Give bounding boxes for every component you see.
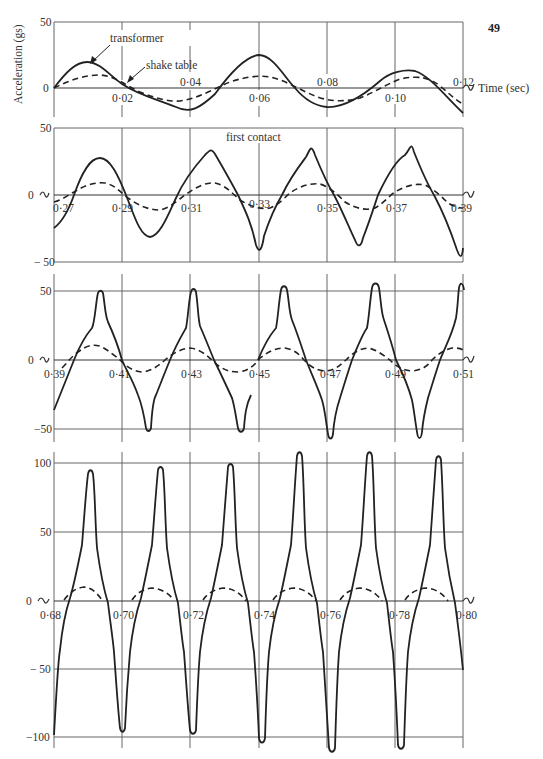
p4-ytick-neg50: − 50 [30,663,51,675]
p2-ytick-50: 50 [40,122,52,134]
transformer-label: transformer [110,32,164,44]
panel-1: 50 0 0·02 0·04 0·06 0·08 0·10 0·12 Time … [40,16,529,117]
p1-ytick-0: 0 [43,82,49,94]
x-axis-label: Time (sec) [478,81,529,95]
y-axis-label: Acceleration (gs) [12,24,25,104]
p4-ytick-0: 0 [26,595,32,607]
p1-xtick: 0·04 [180,76,201,88]
p4-xtick: 0·68 [40,609,61,621]
p2-xtick: 0·31 [181,202,202,214]
p4-xtick: 0·72 [183,609,204,621]
p4-ytick-neg100: −100 [26,731,50,743]
p4-xtick: 0·70 [113,609,134,621]
first-contact-label: first contact [226,131,281,143]
panel-2: 50 0 − 50 0·27 0·29 0·31 0·33 0·35 0·37 … [28,122,474,268]
p3-ytick-50: 50 [40,285,52,297]
p4-xtick: 0·76 [320,609,341,621]
p3-xtick: 0·45 [249,368,270,380]
shake-table-label: shake table [146,59,197,71]
p4-xtick: 0·78 [389,609,410,621]
p3-ytick-0: 0 [28,354,34,366]
p3-xtick: 0·39 [44,368,65,380]
p3-xtick: 0·43 [181,368,202,380]
p1-xtick: 0·06 [249,92,270,104]
p1-xtick: 0·08 [317,76,338,88]
p3-ytick-neg50: −50 [34,423,52,435]
p4-xtick: 0·74 [254,609,275,621]
p1-xtick: 0·10 [385,92,406,104]
p1-ytick-50: 50 [40,16,52,28]
page-number: 49 [488,21,500,35]
p2-ytick-0: 0 [28,189,34,201]
p4-xtick: 0·80 [456,609,477,621]
p2-xtick: 0·35 [317,202,338,214]
p4-ytick-50: 50 [40,526,52,538]
panel-3: 50 0 −50 0·39 0·41 0·43 0·45 0·47 0·49 0… [28,274,474,442]
p1-xtick: 0·02 [112,92,133,104]
panel-4: 100 50 0 − 50 −100 0·68 0·70 0·72 0·74 0… [26,452,477,752]
p2-ytick-neg50: − 50 [34,256,55,268]
p2-xtick: 0·37 [386,202,407,214]
p3-xtick: 0·51 [453,368,474,380]
p4-ytick-100: 100 [34,457,52,469]
p1-xtick: 0·12 [453,76,474,88]
acceleration-figure: 49 Acceleration (gs) 50 0 0·02 0·04 0·06… [0,0,543,759]
